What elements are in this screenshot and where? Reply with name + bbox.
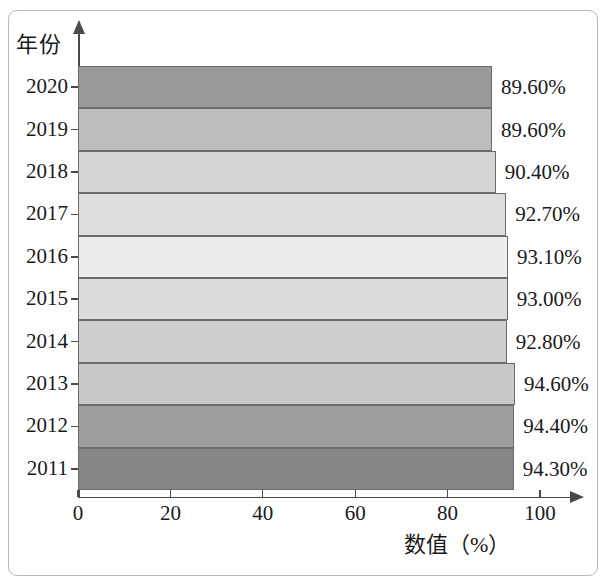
x-axis-line <box>78 497 580 499</box>
year-label-2016: 2016 <box>10 246 68 267</box>
bar-2020 <box>78 66 492 108</box>
y-axis-arrow-icon <box>73 20 85 34</box>
x-tick-0 <box>77 490 78 497</box>
x-tick-20 <box>170 490 171 497</box>
year-label-2018: 2018 <box>10 161 68 182</box>
bar-2018 <box>78 151 496 193</box>
bar-2015 <box>78 278 508 320</box>
x-tick-label-100: 100 <box>510 502 570 524</box>
bar-2016 <box>78 236 508 278</box>
bar-2013 <box>78 363 515 405</box>
bar-value-2015: 93.00% <box>517 289 582 310</box>
bar-2012 <box>78 405 514 447</box>
bar-value-2017: 92.70% <box>515 204 580 225</box>
year-label-2013: 2013 <box>10 373 68 394</box>
bar-value-2011: 94.30% <box>523 459 588 480</box>
year-label-2012: 2012 <box>10 415 68 436</box>
x-tick-80 <box>447 490 448 497</box>
x-tick-label-80: 80 <box>418 502 478 524</box>
year-label-2011: 2011 <box>10 458 68 479</box>
year-label-2019: 2019 <box>10 119 68 140</box>
year-label-2014: 2014 <box>10 331 68 352</box>
x-tick-label-20: 20 <box>140 502 200 524</box>
year-label-2020: 2020 <box>10 76 68 97</box>
bar-value-2012: 94.40% <box>523 416 588 437</box>
bar-2014 <box>78 320 507 362</box>
bar-2011 <box>78 448 514 490</box>
bar-value-2018: 90.40% <box>505 162 570 183</box>
x-tick-60 <box>355 490 356 497</box>
x-tick-label-40: 40 <box>233 502 293 524</box>
x-axis-arrow-icon <box>570 491 584 503</box>
bar-value-2014: 92.80% <box>516 332 581 353</box>
y-axis-title: 年份 <box>16 26 62 58</box>
bar-value-2019: 89.60% <box>501 120 566 141</box>
x-tick-label-60: 60 <box>325 502 385 524</box>
x-tick-100 <box>539 490 540 497</box>
year-label-2015: 2015 <box>10 288 68 309</box>
x-tick-40 <box>262 490 263 497</box>
x-axis-title: 数值（%） <box>404 526 510 558</box>
year-label-2017: 2017 <box>10 203 68 224</box>
bar-2019 <box>78 108 492 150</box>
bar-value-2020: 89.60% <box>501 77 566 98</box>
x-tick-label-0: 0 <box>48 502 108 524</box>
bar-2017 <box>78 193 506 235</box>
bar-value-2013: 94.60% <box>524 374 589 395</box>
bar-value-2016: 93.10% <box>517 247 582 268</box>
